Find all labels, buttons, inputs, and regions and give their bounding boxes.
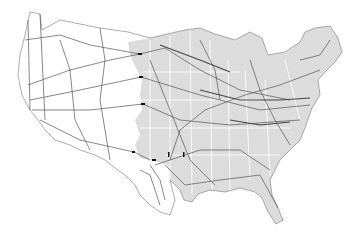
marker bbox=[139, 76, 143, 78]
pipeline-map bbox=[0, 0, 363, 245]
marker bbox=[152, 159, 156, 161]
marker bbox=[138, 53, 142, 55]
marker bbox=[141, 103, 145, 105]
marker bbox=[168, 152, 170, 157]
marker bbox=[183, 152, 185, 157]
eastern-region bbox=[128, 26, 342, 224]
marker bbox=[132, 151, 135, 153]
